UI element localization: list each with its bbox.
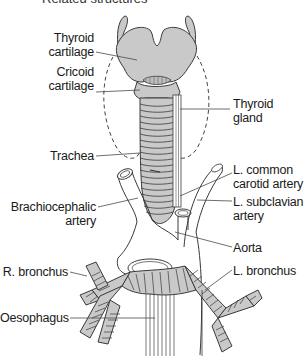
label-l-subclavian-artery: L. subclavian artery <box>233 195 307 223</box>
label-l-common-carotid-artery: L. common carotid artery <box>233 163 307 191</box>
l-subclavian-artery <box>184 165 223 247</box>
label-line: cartilage <box>28 79 94 93</box>
label-brachiocephalic-artery: Brachiocephalic artery <box>4 200 96 228</box>
label-line: carotid artery <box>233 177 307 191</box>
thyroid-cartilage <box>116 27 196 82</box>
label-oesophagus: Oesophagus <box>0 311 68 325</box>
label-line: Oesophagus <box>0 311 68 325</box>
label-line: gland <box>233 111 303 125</box>
label-line: Brachiocephalic <box>4 200 96 214</box>
label-cricoid-cartilage: Cricoid cartilage <box>28 65 94 93</box>
label-line: Cricoid <box>28 65 94 79</box>
label-line: artery <box>233 209 307 223</box>
label-line: L. bronchus <box>233 264 307 278</box>
label-l-bronchus: L. bronchus <box>233 264 307 278</box>
label-thyroid-cartilage: Thyroid cartilage <box>28 31 94 59</box>
label-line: Aorta <box>233 241 303 255</box>
oesophagus <box>146 290 174 356</box>
label-line: artery <box>4 214 96 228</box>
label-line: L. subclavian <box>233 195 307 209</box>
thyroid-gland-strip <box>173 95 181 207</box>
label-line: cartilage <box>28 45 94 59</box>
label-line: R. bronchus <box>0 265 68 279</box>
label-r-bronchus: R. bronchus <box>0 265 68 279</box>
label-line: Thyroid <box>28 31 94 45</box>
label-aorta: Aorta <box>233 241 303 255</box>
label-line: L. common <box>233 163 307 177</box>
anatomy-diagram: Related structures <box>0 0 307 356</box>
label-line: Trachea <box>28 149 94 163</box>
label-thyroid-gland: Thyroid gland <box>233 97 303 125</box>
label-trachea: Trachea <box>28 149 94 163</box>
label-line: Thyroid <box>233 97 303 111</box>
